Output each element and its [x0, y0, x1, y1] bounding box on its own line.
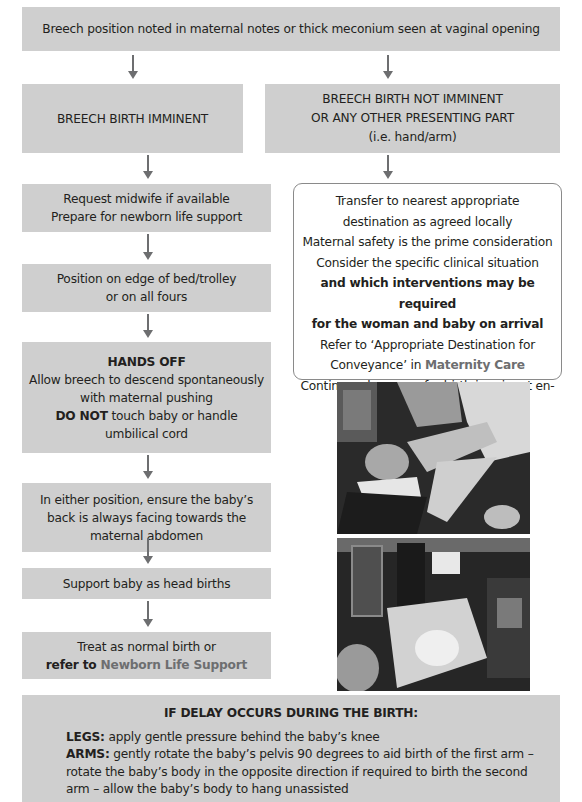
arrow-down-icon [143, 155, 153, 179]
request-midwife-box: Request midwife if available Prepare for… [22, 184, 271, 232]
start-box: Breech position noted in maternal notes … [22, 7, 560, 51]
transfer-info-box: Transfer to nearest appropriate destinat… [293, 183, 562, 380]
step-line: or on all fours [106, 288, 187, 306]
legs-label: LEGS: [66, 730, 105, 744]
do-not-line: DO NOT touch baby or handle [55, 407, 237, 425]
delay-box: IF DELAY OCCURS DURING THE BIRTH: LEGS: … [22, 695, 560, 802]
info-line: Maternal safety is the prime considerati… [294, 232, 561, 253]
step-line: Support baby as head births [63, 575, 231, 593]
delay-title: IF DELAY OCCURS DURING THE BIRTH: [36, 705, 546, 723]
arms-text: gently rotate the baby’s pelvis 90 degre… [66, 747, 534, 796]
refer-label: refer to [46, 658, 101, 672]
step-line: Position on edge of bed/trolley [57, 270, 237, 288]
arms-instruction: ARMS: gently rotate the baby’s pelvis 90… [66, 746, 546, 799]
info-bold-line: and which interventions may be required [294, 273, 561, 314]
info-line: destination as agreed locally [294, 212, 561, 233]
arrow-down-icon [143, 601, 153, 627]
position-box: Position on edge of bed/trolley or on al… [22, 264, 271, 312]
step-line: back is always facing towards the [47, 509, 246, 527]
step-line: Treat as normal birth or [77, 638, 215, 656]
refer-line: refer to Newborn Life Support [46, 656, 247, 674]
support-head-box: Support baby as head births [22, 568, 271, 599]
info-bold-line: for the woman and baby on arrival [294, 314, 561, 335]
start-text: Breech position noted in maternal notes … [42, 20, 540, 38]
arrow-down-icon [143, 538, 153, 564]
conveyance-line: Conveyance’ in Maternity Care [294, 355, 561, 376]
hands-off-box: HANDS OFF Allow breech to descend sponta… [22, 342, 271, 453]
info-line: Refer to ‘Appropriate Destination for [294, 335, 561, 356]
arrow-down-icon [143, 455, 153, 479]
breech-imminent-label: BREECH BIRTH IMMINENT [57, 110, 208, 128]
step-line: umbilical cord [105, 425, 188, 443]
arrow-down-icon [383, 155, 393, 179]
info-line: Transfer to nearest appropriate [294, 191, 561, 212]
step-line: with maternal pushing [80, 389, 213, 407]
info-line: Consider the specific clinical situation [294, 253, 561, 274]
header-line: (i.e. hand/arm) [369, 128, 457, 147]
hands-off-title: HANDS OFF [107, 353, 185, 371]
arrow-down-icon [143, 234, 153, 260]
legs-text: apply gentle pressure behind the baby’s … [105, 730, 380, 744]
maternity-care-link[interactable]: Maternity Care [425, 358, 525, 372]
legs-instruction: LEGS: apply gentle pressure behind the b… [66, 729, 546, 747]
step-line: Allow breech to descend spontaneously [29, 371, 264, 389]
treat-normal-box: Treat as normal birth or refer to Newbor… [22, 632, 271, 679]
do-not-text: touch baby or handle [108, 409, 238, 423]
arrow-down-icon [128, 55, 138, 79]
breech-not-imminent-box: BREECH BIRTH NOT IMMINENT OR ANY OTHER P… [265, 84, 560, 153]
arrow-down-icon [383, 55, 393, 79]
breech-imminent-box: BREECH BIRTH IMMINENT [22, 84, 243, 153]
step-line: Request midwife if available [63, 190, 229, 208]
step-line: Prepare for newborn life support [51, 208, 242, 226]
conveyance-prefix: Conveyance’ in [330, 358, 425, 372]
step-line: In either position, ensure the baby’s [40, 491, 253, 509]
photo-breech-birth-trolley [337, 382, 530, 534]
arms-label: ARMS: [66, 747, 110, 761]
header-line: OR ANY OTHER PRESENTING PART [311, 109, 514, 128]
photo-newborn-ambulance [337, 538, 530, 691]
arrow-down-icon [143, 314, 153, 338]
header-line: BREECH BIRTH NOT IMMINENT [322, 90, 502, 109]
do-not-label: DO NOT [55, 409, 107, 423]
newborn-life-support-link[interactable]: Newborn Life Support [101, 658, 248, 672]
